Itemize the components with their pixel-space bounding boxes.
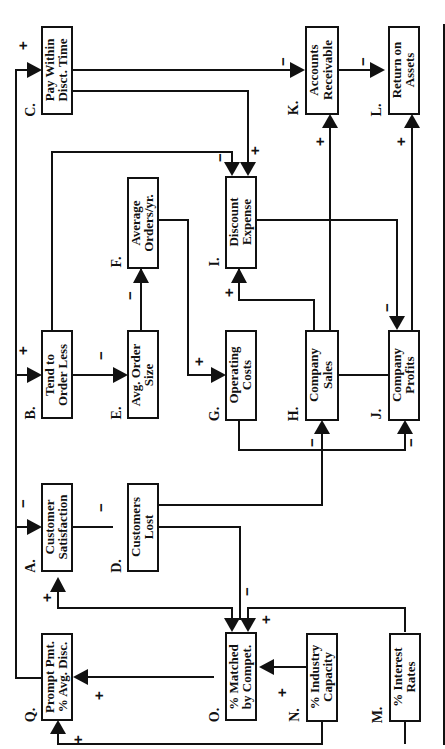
svg-text:−: − [211, 153, 228, 162]
svg-text:by Compet.: by Compet. [239, 645, 254, 709]
svg-text:Orders/yr.: Orders/yr. [141, 194, 156, 252]
svg-text:+: + [273, 688, 290, 697]
svg-text:Assets: Assets [402, 53, 417, 88]
svg-text:Company: Company [306, 347, 321, 402]
svg-text:Expense: Expense [239, 199, 254, 245]
svg-text:K.: K. [286, 101, 301, 115]
svg-text:Capacity: Capacity [320, 652, 335, 702]
svg-text:O.: O. [207, 708, 222, 722]
svg-text:Satisfaction: Satisfaction [55, 494, 70, 560]
svg-text:Q.: Q. [23, 708, 38, 722]
svg-text:+: + [90, 691, 107, 700]
svg-text:Receivable: Receivable [320, 40, 335, 100]
svg-text:−: − [354, 57, 371, 66]
svg-text:J.: J. [369, 409, 384, 420]
svg-text:+: + [14, 41, 31, 50]
svg-text:−: − [92, 351, 109, 360]
svg-text:Size: Size [141, 364, 156, 387]
svg-text:Costs: Costs [239, 360, 254, 390]
svg-text:+: + [190, 357, 207, 366]
node-d-customers-lost: Customers Lost D. [109, 484, 158, 573]
node-m-interest-rates: % Interest Rates M. [370, 634, 420, 723]
node-i-discount-expense: Discount Expense I. [207, 177, 256, 268]
svg-text:−: − [92, 503, 109, 512]
node-n-industry-capacity: % Industry Capacity N. [287, 634, 337, 722]
svg-text:C.: C. [23, 103, 38, 117]
svg-text:Order Less: Order Less [55, 344, 70, 406]
svg-text:Accounts: Accounts [306, 44, 321, 95]
link-signs: + + − − − − + − + + − − + + − − − − + + … [14, 41, 419, 744]
svg-text:+: + [69, 735, 86, 744]
node-f-average-orders-yr: Average Orders/yr. F. [109, 178, 158, 268]
svg-text:F.: F. [109, 257, 124, 268]
svg-text:N.: N. [287, 708, 302, 722]
svg-text:Lost: Lost [141, 514, 156, 539]
svg-text:+: + [392, 137, 409, 146]
svg-text:B.: B. [23, 407, 38, 420]
svg-text:−: − [303, 438, 320, 447]
svg-text:L.: L. [369, 104, 384, 117]
svg-text:+: + [220, 288, 237, 297]
svg-text:+: + [38, 593, 55, 602]
svg-text:+: + [14, 346, 31, 355]
node-o-matched-by-compet: % Matched by Compet. O. [207, 633, 256, 722]
svg-text:−: − [121, 291, 138, 300]
svg-text:+: + [257, 615, 274, 624]
svg-text:Profits: Profits [402, 356, 417, 393]
svg-text:Disct. Time: Disct. Time [55, 38, 70, 101]
svg-text:Rates: Rates [403, 661, 418, 692]
svg-text:E.: E. [109, 407, 124, 420]
svg-text:+: + [246, 146, 263, 155]
svg-text:I.: I. [207, 258, 222, 267]
svg-text:D.: D. [109, 559, 124, 573]
svg-text:G.: G. [207, 407, 222, 421]
svg-text:−: − [274, 57, 291, 66]
svg-text:−: − [378, 303, 395, 312]
causal-loop-diagram: + + − − − − + − + + − − + + − − − − + + … [0, 0, 445, 749]
svg-text:H.: H. [286, 407, 301, 421]
svg-text:Sales: Sales [320, 361, 335, 389]
svg-text:+: + [311, 137, 328, 146]
node-h-company-sales: Company Sales H. [286, 331, 338, 421]
svg-text:−: − [402, 438, 419, 447]
svg-text:M.: M. [370, 707, 385, 724]
svg-text:−: − [14, 499, 31, 508]
svg-text:−: − [238, 587, 255, 596]
svg-text:% Avg. Disc.: % Avg. Disc. [55, 642, 70, 713]
svg-text:A.: A. [23, 559, 38, 573]
